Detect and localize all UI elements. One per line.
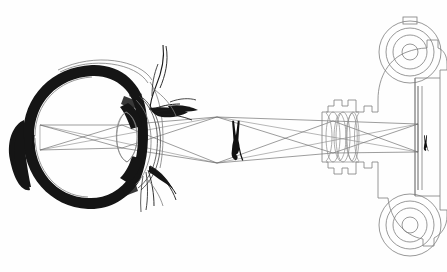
optics-diagram: Optical comparison: the human eye and th… [0, 0, 447, 272]
optics-illustration [0, 0, 447, 272]
